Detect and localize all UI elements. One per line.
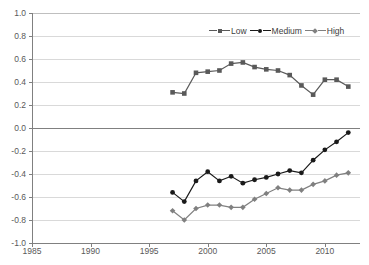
data-point-marker [205, 202, 211, 208]
legend-line-swatch [318, 30, 326, 31]
chart-container: 1.00.80.60.40.20.0-0.2-0.4-0.6-0.8-1.0 1… [0, 0, 369, 265]
data-point-marker [323, 77, 328, 82]
data-point-marker [322, 147, 327, 152]
data-point-marker [264, 175, 269, 180]
legend-line-swatch [250, 30, 258, 31]
data-point-marker [252, 177, 257, 182]
legend-marker-icon [218, 29, 222, 33]
data-point-marker [322, 178, 328, 184]
data-point-marker [276, 172, 281, 177]
legend-label: Medium [272, 26, 302, 36]
legend-marker-icon [312, 28, 318, 34]
legend-label: Low [231, 26, 247, 36]
data-point-marker [276, 68, 281, 73]
legend-line-swatch [263, 30, 271, 31]
data-series-layer [0, 0, 369, 265]
data-point-marker [334, 172, 340, 178]
data-point-marker [287, 73, 292, 78]
data-point-marker [170, 190, 175, 195]
data-point-marker [287, 168, 292, 173]
data-point-marker [194, 179, 199, 184]
data-point-marker [194, 71, 199, 76]
data-point-marker [334, 139, 339, 144]
data-point-marker [241, 60, 246, 65]
data-point-marker [299, 187, 305, 193]
series-line [173, 62, 349, 94]
legend-line-swatch [209, 30, 217, 31]
chart-legend: LowMediumHigh [209, 25, 347, 36]
data-point-marker [217, 68, 222, 73]
data-point-marker [205, 69, 210, 74]
series-high [170, 170, 351, 223]
data-point-marker [217, 202, 223, 208]
data-point-marker [263, 191, 269, 197]
data-point-marker [334, 77, 339, 82]
data-point-marker [252, 65, 257, 70]
data-point-marker [205, 169, 210, 174]
data-point-marker [299, 170, 304, 175]
legend-line-swatch [222, 30, 230, 31]
data-point-marker [170, 90, 175, 95]
legend-entry-high[interactable]: High [305, 26, 344, 36]
series-medium [170, 130, 351, 204]
data-point-marker [229, 174, 234, 179]
data-point-marker [346, 130, 351, 135]
data-point-marker [182, 91, 187, 96]
data-point-marker [275, 185, 281, 191]
data-point-marker [311, 92, 316, 97]
data-point-marker [311, 158, 316, 163]
data-point-marker [310, 182, 316, 188]
legend-marker-icon [258, 29, 262, 33]
data-point-marker [228, 205, 234, 211]
data-point-marker [240, 181, 245, 186]
data-point-marker [264, 67, 269, 72]
data-point-marker [299, 83, 304, 88]
series-line [173, 173, 349, 220]
data-point-marker [217, 179, 222, 184]
legend-entry-medium[interactable]: Medium [250, 26, 302, 36]
data-point-marker [229, 61, 234, 66]
legend-label: High [327, 26, 344, 36]
data-point-marker [346, 84, 351, 89]
series-low [170, 60, 350, 97]
legend-entry-low[interactable]: Low [209, 26, 247, 36]
data-point-marker [345, 170, 351, 176]
series-line [173, 133, 349, 202]
data-point-marker [182, 199, 187, 204]
data-point-marker [287, 187, 293, 193]
